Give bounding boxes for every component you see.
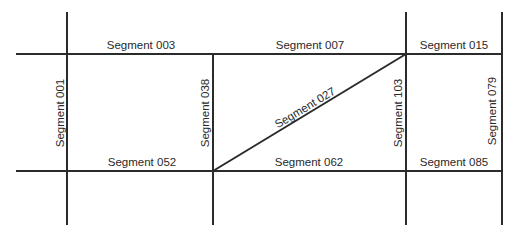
segment-027-label: Segment 027 [273, 85, 338, 131]
segment-007-label: Segment 007 [276, 39, 344, 51]
segment-001-label: Segment 001 [54, 79, 66, 147]
segment-052-label: Segment 052 [108, 156, 176, 168]
segment-038-label: Segment 038 [199, 79, 211, 147]
segment-079-label: Segment 079 [486, 77, 498, 145]
segment-062-label: Segment 062 [275, 156, 343, 168]
segment-085-label: Segment 085 [420, 156, 488, 168]
road-segment-diagram: Segment 003 Segment 007 Segment 015 Segm… [0, 0, 516, 238]
segment-003-label: Segment 003 [107, 39, 175, 51]
segment-015-label: Segment 015 [420, 39, 488, 51]
road-line-diagonal[interactable] [213, 54, 406, 171]
segment-103-label: Segment 103 [392, 79, 404, 147]
